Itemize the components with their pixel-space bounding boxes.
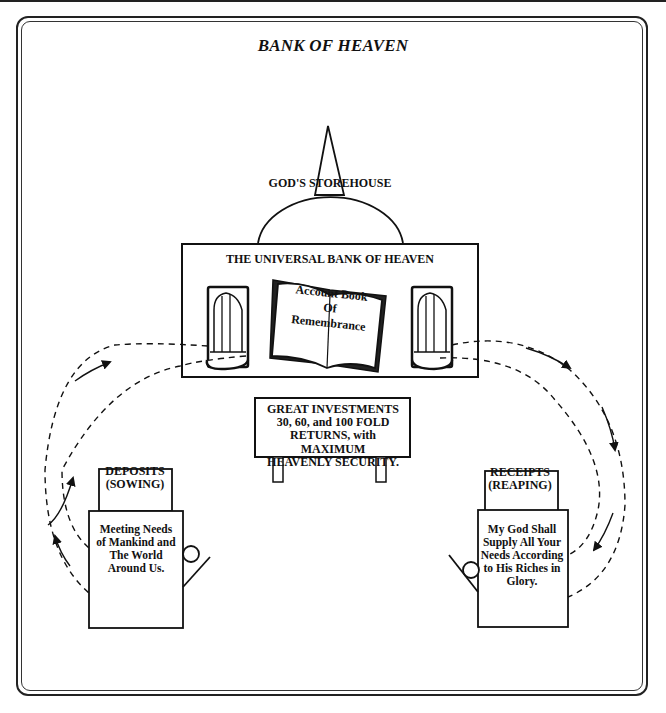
dome-shape [258, 197, 403, 243]
diagram-artwork [0, 0, 666, 713]
storehouse-label: GOD'S STOREHOUSE [260, 177, 400, 190]
sign-line-3: RETURNS, with MAXIMUM [258, 429, 408, 455]
receipts-line-2: Supply All Your [478, 536, 566, 549]
receipts-subtitle: (REAPING) [484, 479, 556, 492]
right-window-icon [412, 287, 452, 369]
receipts-line-4: to His Riches in [478, 562, 566, 575]
sign-line-4: HEAVENLY SECURITY. [258, 456, 408, 469]
receipts-line-3: Needs According [478, 549, 566, 562]
deposits-line-4: Around Us. [92, 562, 180, 575]
deposits-body: Meeting Needs of Mankind and The World A… [92, 523, 180, 575]
receipts-title: RECEIPTS [484, 466, 556, 479]
deposits-header: DEPOSITS (SOWING) [99, 465, 171, 492]
investment-sign-text: GREAT INVESTMENTS 30, 60, and 100 FOLD R… [258, 403, 408, 469]
deposits-line-1: Meeting Needs [92, 523, 180, 536]
deposits-subtitle: (SOWING) [99, 478, 171, 491]
bank-title: THE UNIVERSAL BANK OF HEAVEN [195, 253, 465, 266]
receipts-line-1: My God Shall [478, 523, 566, 536]
deposits-title: DEPOSITS [99, 465, 171, 478]
receipts-header: RECEIPTS (REAPING) [484, 466, 556, 493]
deposits-line-2: of Mankind and [92, 536, 180, 549]
receipts-line-5: Glory. [478, 575, 566, 588]
receipts-body: My God Shall Supply All Your Needs Accor… [478, 523, 566, 587]
deposits-line-3: The World [92, 549, 180, 562]
